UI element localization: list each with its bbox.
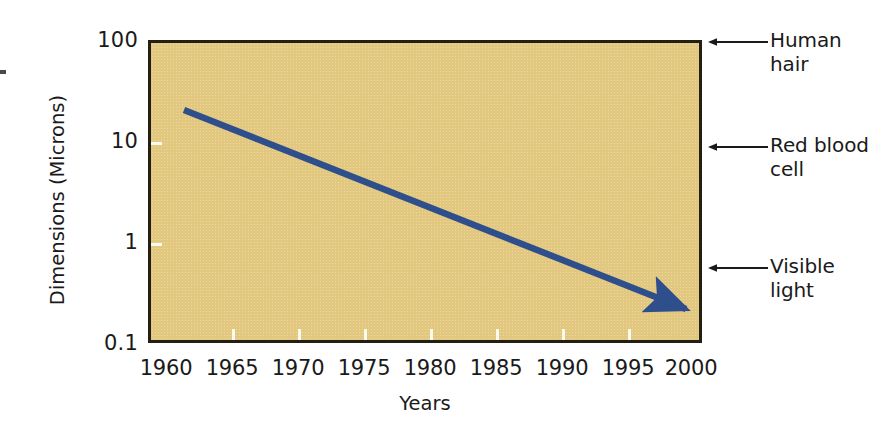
y-tick-label-100: 100 (97, 30, 138, 51)
y-axis-title: Dimensions (Microns) (48, 80, 68, 320)
x-axis-title: Years (148, 393, 702, 415)
annotation-label-visible-light: Visible light (770, 254, 896, 302)
annotation-label-red-blood-cell: Red blood cell (770, 133, 896, 181)
annotation-arrow-left-icon (706, 36, 768, 48)
x-tick-label-2000: 2000 (651, 356, 731, 380)
annotation-arrow-left-icon (706, 262, 768, 274)
trend-line (184, 110, 686, 309)
annotation-label-human-hair: Human hair (770, 28, 896, 76)
annotation-arrow-left-icon (706, 141, 768, 153)
plot-area (148, 40, 702, 343)
y-tick-label-10: 10 (111, 131, 138, 152)
trend-line-series (151, 43, 702, 343)
y-tick-label-1: 1 (124, 232, 138, 253)
page-edge-artifact (0, 70, 6, 74)
y-tick-label-0.1: 0.1 (104, 333, 138, 354)
log-line-chart-figure: Dimensions (Microns) 100 10 1 0.1 (0, 0, 896, 445)
x-axis-tick-labels: 1960 1965 1970 1975 1980 1985 1990 1995 … (0, 356, 896, 382)
